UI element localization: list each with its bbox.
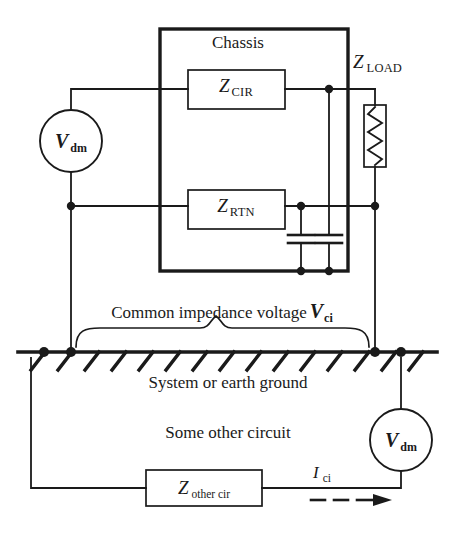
vdm-bottom-label: Vdm bbox=[385, 429, 417, 455]
vci-subscript: ci bbox=[324, 311, 333, 326]
other-circuit-label: Some other circuit bbox=[165, 423, 291, 443]
ground-hatching bbox=[31, 352, 423, 370]
z-cir-symbol: Z bbox=[219, 75, 230, 96]
ici-subscript: ci bbox=[323, 472, 331, 484]
node-ground-right-inner bbox=[370, 347, 380, 357]
node-ground-left-outer bbox=[39, 347, 49, 357]
wire-vdm-top-to-zcir bbox=[71, 89, 188, 110]
circuit-diagram-figure: Chassis ZCIR ZRTN ZLOAD Vdm Vdm Common i… bbox=[0, 0, 453, 533]
node-vdm-top-bottom bbox=[67, 202, 75, 210]
ground-label: System or earth ground bbox=[148, 373, 307, 393]
chassis-label: Chassis bbox=[212, 33, 264, 53]
wire-vdm-bottom-to-zrtn bbox=[71, 172, 188, 206]
node-zrtn-right bbox=[297, 202, 305, 210]
common-impedance-voltage-label: Common impedance voltageVci bbox=[111, 300, 332, 326]
wire-bottom-left-leg bbox=[31, 358, 146, 488]
node-cap-left-bottom bbox=[297, 267, 305, 275]
vdm-top-symbol: V bbox=[55, 130, 68, 152]
node-cap-right-bottom bbox=[325, 267, 333, 275]
ici-arrowhead bbox=[373, 494, 392, 506]
z-other-cir-symbol: Z bbox=[178, 477, 189, 498]
node-ground-right-outer bbox=[396, 347, 406, 357]
vdm-bottom-symbol: V bbox=[385, 429, 398, 451]
wire-zother-to-vdm-bottom bbox=[262, 471, 401, 488]
z-rtn-subscript: RTN bbox=[230, 205, 255, 220]
ici-symbol: I bbox=[313, 463, 319, 482]
vdm-top-subscript: dm bbox=[70, 141, 87, 156]
vci-symbol: V bbox=[310, 300, 323, 322]
node-zload-bottom bbox=[371, 202, 379, 210]
vdm-top-label: Vdm bbox=[55, 130, 87, 156]
node-ground-left-inner bbox=[66, 347, 76, 357]
z-other-cir-label: Zother cir bbox=[178, 477, 230, 500]
common-impedance-text: Common impedance voltage bbox=[111, 303, 306, 322]
z-other-cir-subscript: other cir bbox=[191, 488, 230, 500]
z-cir-subscript: CIR bbox=[232, 85, 253, 100]
z-load-subscript: LOAD bbox=[367, 61, 403, 76]
ici-label: Ici bbox=[313, 463, 331, 484]
vdm-bottom-subscript: dm bbox=[400, 440, 417, 455]
node-zcir-right bbox=[325, 85, 333, 93]
z-rtn-label: ZRTN bbox=[217, 195, 254, 220]
z-rtn-symbol: Z bbox=[217, 195, 228, 216]
z-load-label: ZLOAD bbox=[353, 51, 402, 76]
z-load-symbol: Z bbox=[353, 51, 364, 72]
z-load-resistor-zigzag bbox=[368, 107, 382, 165]
z-cir-label: ZCIR bbox=[219, 75, 253, 100]
